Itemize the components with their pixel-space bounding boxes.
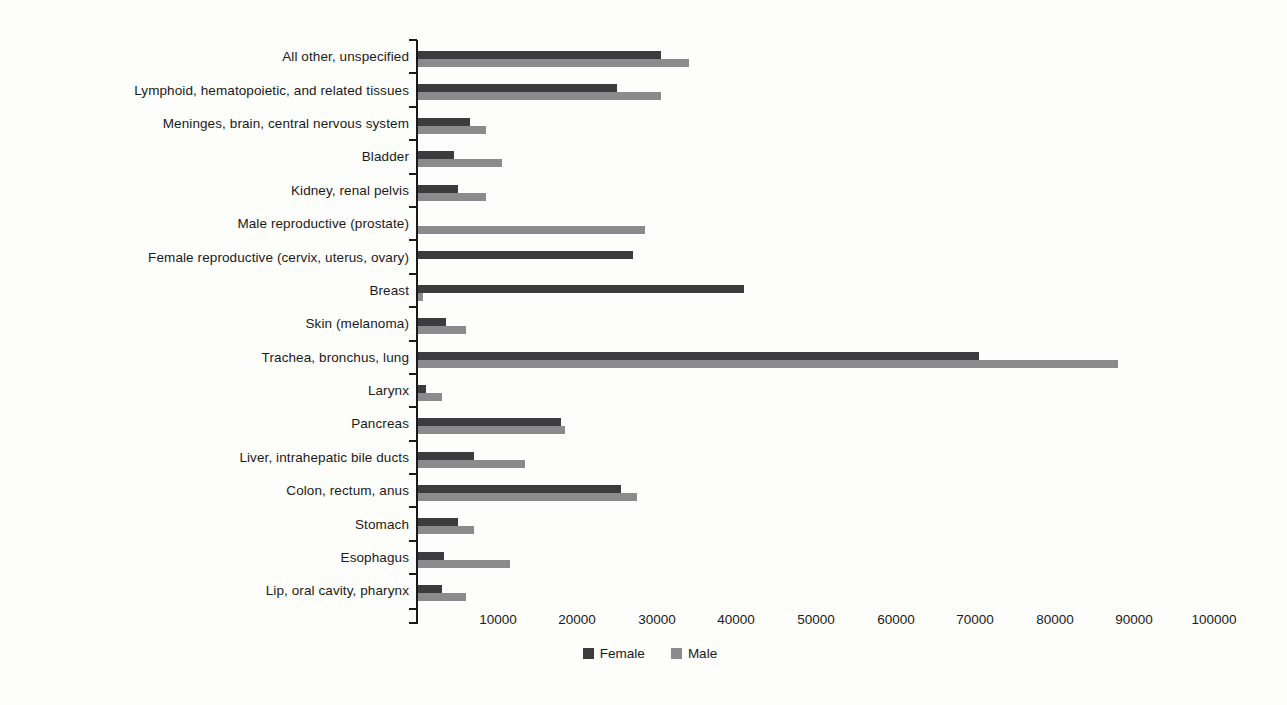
x-tick-label: 60000 <box>877 612 915 627</box>
chart-row: Liver, intrahepatic bile ducts <box>10 441 1260 474</box>
category-label: Liver, intrahepatic bile ducts <box>10 441 416 474</box>
x-tick-label: 70000 <box>956 612 994 627</box>
bar-male <box>418 226 645 234</box>
category-label: Lip, oral cavity, pharynx <box>10 574 416 607</box>
chart-row: Kidney, renal pelvis <box>10 174 1260 207</box>
female-legend-label: Female <box>600 646 645 661</box>
bar-female <box>418 118 470 126</box>
bar-female <box>418 352 979 360</box>
bar-group <box>416 507 1260 540</box>
bar-female <box>418 552 444 560</box>
female-legend-swatch <box>583 648 594 659</box>
category-label: Stomach <box>10 507 416 540</box>
legend-item-male: Male <box>671 646 717 661</box>
bar-female <box>418 251 633 259</box>
bar-male <box>418 560 510 568</box>
x-tick-label: 100000 <box>1191 612 1236 627</box>
chart-row: Lymphoid, hematopoietic, and related tis… <box>10 73 1260 106</box>
x-tick-label: 30000 <box>638 612 676 627</box>
bar-male <box>418 393 442 401</box>
chart-row: Bladder <box>10 140 1260 173</box>
category-label: Breast <box>10 274 416 307</box>
category-label: Bladder <box>10 140 416 173</box>
bar-group <box>416 307 1260 340</box>
category-label: Trachea, bronchus, lung <box>10 341 416 374</box>
bar-male <box>418 426 565 434</box>
bar-female <box>418 518 458 526</box>
bar-male <box>418 126 486 134</box>
x-tick-label: 80000 <box>1036 612 1074 627</box>
bar-male <box>418 159 502 167</box>
bar-female <box>418 585 442 593</box>
category-label: Esophagus <box>10 541 416 574</box>
category-label: Male reproductive (prostate) <box>10 207 416 240</box>
bar-female <box>418 318 446 326</box>
x-tick-label: 50000 <box>797 612 835 627</box>
bar-male <box>418 326 466 334</box>
bar-group <box>416 40 1260 73</box>
legend: Female Male <box>10 646 1260 661</box>
bar-group <box>416 441 1260 474</box>
bar-group <box>416 474 1260 507</box>
category-label: Meninges, brain, central nervous system <box>10 107 416 140</box>
category-label: All other, unspecified <box>10 40 416 73</box>
bar-female <box>418 285 744 293</box>
bar-group <box>416 374 1260 407</box>
bar-chart: All other, unspecifiedLymphoid, hematopo… <box>10 40 1260 690</box>
bar-male <box>418 526 474 534</box>
chart-row: Meninges, brain, central nervous system <box>10 107 1260 140</box>
bar-group <box>416 574 1260 607</box>
male-legend-label: Male <box>688 646 717 661</box>
bar-female <box>418 151 454 159</box>
chart-row: Pancreas <box>10 407 1260 440</box>
x-tick-label: 40000 <box>717 612 755 627</box>
bar-female <box>418 84 617 92</box>
chart-row: Colon, rectum, anus <box>10 474 1260 507</box>
bar-group <box>416 341 1260 374</box>
chart-row: Esophagus <box>10 541 1260 574</box>
bar-group <box>416 407 1260 440</box>
bar-male <box>418 92 661 100</box>
x-tick-label: 90000 <box>1115 612 1153 627</box>
bar-group <box>416 207 1260 240</box>
category-label: Female reproductive (cervix, uterus, ova… <box>10 240 416 273</box>
male-legend-swatch <box>671 648 682 659</box>
category-label: Skin (melanoma) <box>10 307 416 340</box>
chart-row: Skin (melanoma) <box>10 307 1260 340</box>
bar-female <box>418 51 661 59</box>
chart-row: Trachea, bronchus, lung <box>10 341 1260 374</box>
bar-male <box>418 193 486 201</box>
chart-row: All other, unspecified <box>10 40 1260 73</box>
category-label: Larynx <box>10 374 416 407</box>
bar-male <box>418 59 689 67</box>
category-label: Colon, rectum, anus <box>10 474 416 507</box>
bar-male <box>418 360 1118 368</box>
bar-female <box>418 418 561 426</box>
bar-group <box>416 107 1260 140</box>
legend-item-female: Female <box>583 646 645 661</box>
bar-female <box>418 185 458 193</box>
bar-group <box>416 73 1260 106</box>
bar-female <box>418 452 474 460</box>
x-axis-tick-labels: 1000020000300004000050000600007000080000… <box>418 612 1218 632</box>
chart-row: Lip, oral cavity, pharynx <box>10 574 1260 607</box>
bar-group <box>416 541 1260 574</box>
bar-group <box>416 274 1260 307</box>
bar-female <box>418 485 621 493</box>
category-label: Pancreas <box>10 407 416 440</box>
chart-row: Stomach <box>10 507 1260 540</box>
chart-row: Larynx <box>10 374 1260 407</box>
bar-group <box>416 240 1260 273</box>
chart-row: Breast <box>10 274 1260 307</box>
category-label: Lymphoid, hematopoietic, and related tis… <box>10 73 416 106</box>
bar-male <box>418 460 525 468</box>
bar-female <box>418 385 426 393</box>
bar-male <box>418 493 637 501</box>
bar-male <box>418 293 423 301</box>
x-tick-label: 20000 <box>558 612 596 627</box>
bar-group <box>416 174 1260 207</box>
x-tick-label: 10000 <box>479 612 517 627</box>
chart-row: Male reproductive (prostate) <box>10 207 1260 240</box>
bar-male <box>418 593 466 601</box>
bar-group <box>416 140 1260 173</box>
